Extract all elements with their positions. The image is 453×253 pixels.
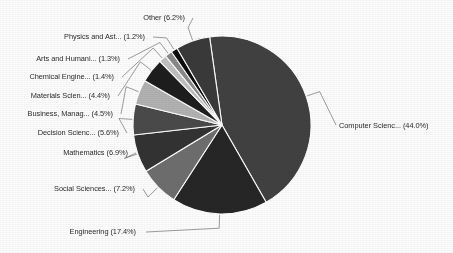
leader-line [119, 119, 132, 134]
leader-line [143, 188, 158, 197]
leader-line [128, 43, 168, 60]
pie-chart-figure: Computer Scienc... (44.0%) Engineering (… [0, 0, 453, 253]
pie-label-physics-astronomy: Physics and Ast... (1.2%) [64, 33, 145, 40]
pie-label-other: Other (6.2%) [143, 14, 185, 21]
pie-label-mathematics: Mathematics (6.9%) [63, 149, 128, 156]
leader-line [146, 215, 220, 232]
pie-label-decision-sciences: Decision Scienc... (5.6%) [38, 129, 119, 136]
pie-slices-group [133, 36, 311, 214]
pie-label-chemical-engineering: Chemical Engine... (1.4%) [29, 73, 114, 80]
pie-label-engineering: Engineering (17.4%) [70, 228, 136, 235]
leader-line [188, 18, 193, 40]
pie-label-materials-science: Materials Scien... (4.4%) [31, 92, 110, 99]
pie-label-computer-science: Computer Scienc... (44.0%) [339, 122, 428, 129]
pie-label-social-sciences: Social Sciences... (7.2%) [54, 185, 135, 192]
pie-label-arts-humanities: Arts and Humani... (1.3%) [36, 55, 120, 62]
pie-label-business-management: Business, Manag... (4.5%) [28, 110, 113, 117]
